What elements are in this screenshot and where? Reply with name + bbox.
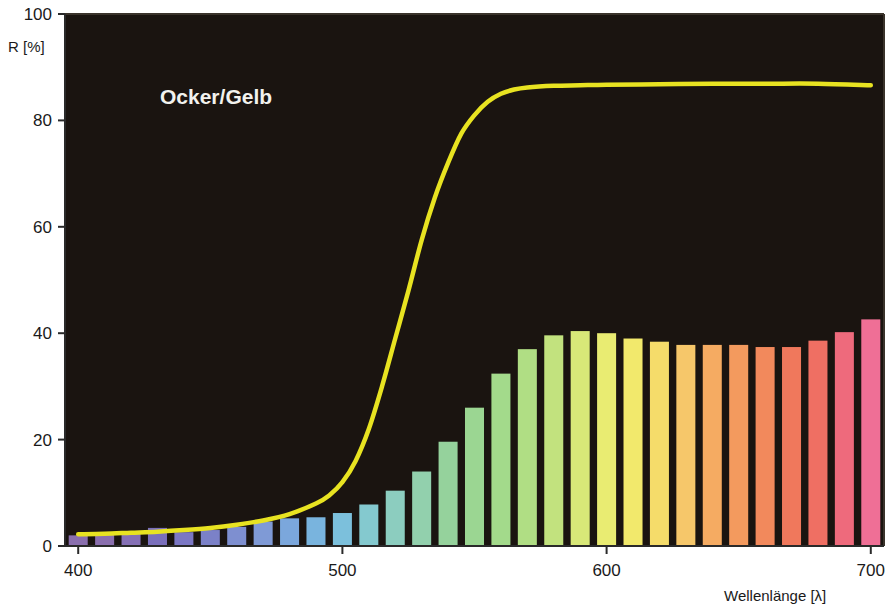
y-tick-label: 80 [33, 111, 52, 130]
bar [439, 442, 458, 546]
y-axis-label: R [%] [8, 38, 45, 55]
bar [782, 347, 801, 546]
bar [465, 408, 484, 546]
y-tick-label: 40 [33, 324, 52, 343]
series-title: Ocker/Gelb [160, 85, 272, 108]
bar [359, 505, 378, 547]
bar [756, 347, 775, 546]
bar [571, 331, 590, 546]
bar [518, 349, 537, 546]
x-tick-label: 700 [857, 561, 885, 580]
bar [333, 513, 352, 546]
bar [280, 518, 299, 546]
chart-canvas: 020406080100 400500600700 Ocker/Gelb R [… [0, 0, 896, 610]
bar [703, 345, 722, 546]
bar [597, 333, 616, 546]
x-axis-label: Wellenlänge [λ] [724, 587, 826, 604]
x-tick-label: 600 [592, 561, 620, 580]
bar [69, 535, 88, 546]
bar [227, 527, 246, 546]
y-tick-label: 0 [43, 537, 52, 556]
x-tick-label: 500 [328, 561, 356, 580]
bar [174, 532, 193, 546]
bar [624, 339, 643, 546]
bar [676, 345, 695, 546]
bar [544, 335, 563, 546]
y-tick-label: 100 [24, 5, 52, 24]
y-tick-label: 60 [33, 218, 52, 237]
bar [412, 472, 431, 546]
bar [201, 530, 220, 546]
bar [650, 342, 669, 546]
bar [729, 345, 748, 546]
bar [491, 374, 510, 546]
bar [835, 332, 854, 546]
x-tick-label: 400 [64, 561, 92, 580]
y-tick-label: 20 [33, 431, 52, 450]
bar [808, 341, 827, 546]
bar [306, 517, 325, 546]
bar [254, 522, 273, 546]
spectral-reflectance-chart: 020406080100 400500600700 Ocker/Gelb R [… [0, 0, 896, 610]
bar [386, 491, 405, 546]
bar [861, 319, 880, 546]
